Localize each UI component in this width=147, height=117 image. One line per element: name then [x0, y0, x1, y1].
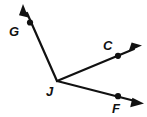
label-j: J	[46, 84, 54, 99]
point-f-dot	[115, 93, 121, 99]
ray-jf	[57, 81, 144, 107]
label-f: F	[112, 101, 121, 116]
label-c: C	[103, 38, 113, 53]
ray-jf-arrowhead-icon	[130, 98, 144, 107]
ray-jc	[57, 43, 142, 81]
ray-jf-line	[57, 81, 135, 101]
ray-jc-arrowhead-icon	[129, 43, 142, 52]
geometry-canvas: G C F J	[0, 0, 147, 117]
point-g-dot	[27, 19, 33, 25]
ray-jc-line	[57, 49, 134, 81]
point-c-dot	[115, 53, 121, 59]
ray-jg-arrowhead-icon	[19, 4, 28, 18]
geometry-diagram: G C F J	[0, 0, 147, 117]
label-g: G	[9, 24, 19, 39]
ray-jg	[19, 4, 57, 81]
